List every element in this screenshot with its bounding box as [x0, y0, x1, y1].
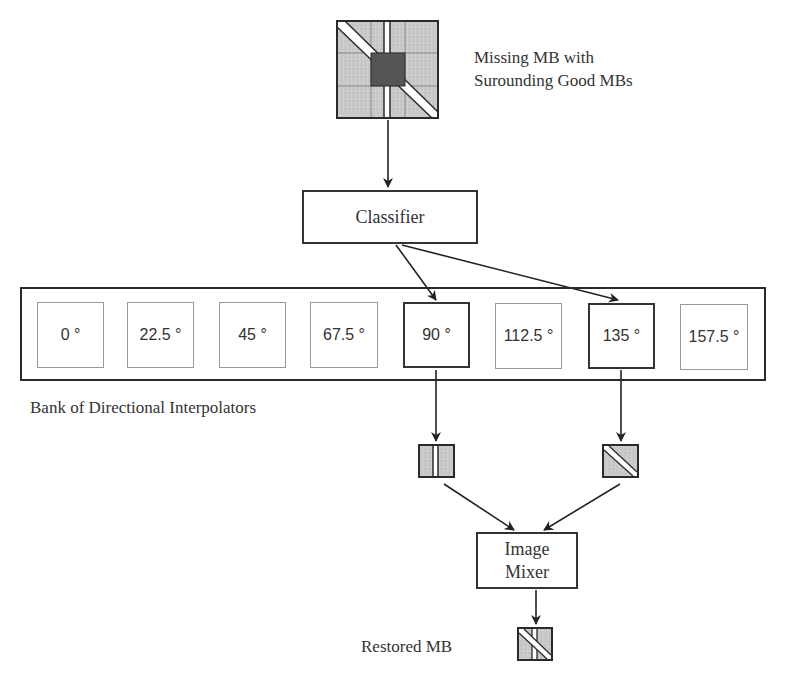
input-block-caption-line1: Missing MB with — [474, 47, 594, 69]
interpolator-0: 0 ° — [37, 302, 104, 368]
mixer-label-line1: Image — [505, 538, 550, 561]
interpolator-112-5: 112.5 ° — [495, 303, 562, 369]
classifier-box: Classifier — [302, 190, 478, 244]
image-mixer-box: Image Mixer — [476, 532, 578, 589]
missing-mb-grid-icon — [337, 21, 438, 118]
interpolator-label: 0 ° — [61, 326, 81, 344]
interpolator-label: 157.5 ° — [689, 328, 740, 346]
diagonal-edge-block-icon — [603, 445, 638, 477]
vertical-edge-block-icon — [419, 445, 454, 477]
interpolator-157-5: 157.5 ° — [680, 304, 748, 370]
arrow-90-to-mixer — [444, 484, 514, 530]
mixer-label-line2: Mixer — [505, 561, 549, 584]
arrow-135-to-mixer — [544, 484, 620, 530]
interpolator-135: 135 ° — [588, 303, 655, 369]
restored-mb-label: Restored MB — [361, 636, 452, 658]
interpolator-label: 135 ° — [603, 327, 641, 345]
interpolator-45: 45 ° — [219, 302, 286, 368]
interpolator-22-5: 22.5 ° — [127, 302, 194, 368]
interpolator-label: 90 ° — [422, 326, 451, 344]
bank-label: Bank of Directional Interpolators — [30, 397, 256, 419]
interpolator-67-5: 67.5 ° — [310, 302, 378, 368]
interpolator-label: 22.5 ° — [140, 326, 182, 344]
restored-mb-icon — [518, 628, 552, 660]
interpolator-label: 67.5 ° — [323, 326, 365, 344]
interpolator-label: 112.5 ° — [504, 327, 554, 345]
interpolator-90: 90 ° — [403, 302, 470, 368]
classifier-label: Classifier — [356, 207, 425, 228]
input-block-caption-line2: Surounding Good MBs — [474, 70, 633, 92]
interpolator-label: 45 ° — [238, 326, 267, 344]
